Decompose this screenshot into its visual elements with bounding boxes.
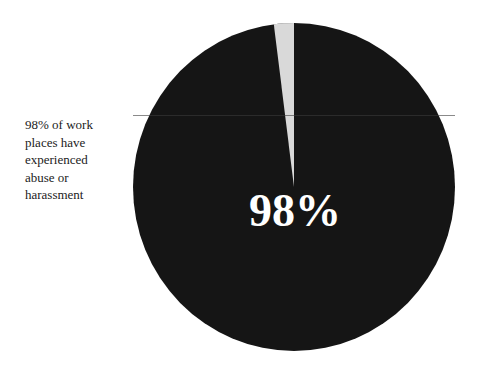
pie-center-label: 98%: [230, 186, 360, 236]
